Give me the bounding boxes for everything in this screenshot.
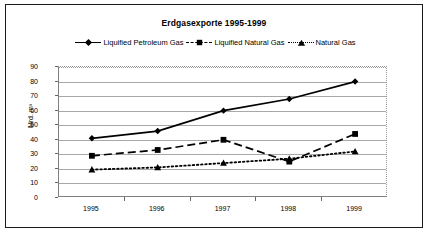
legend-label-natural-gas: Natural Gas [316,38,356,47]
y-axis-tick-label: 30 [8,150,38,157]
y-axis-tick-label: 0 [8,194,38,201]
data-point-marker [155,147,161,153]
data-point-marker [221,137,227,143]
x-axis-tick-label: 1997 [203,205,243,212]
y-axis-tick-label: 50 [8,121,38,128]
legend-marker-square-icon [186,38,212,47]
chart-legend: Liquified Petroleum Gas Liquified Natura… [6,38,422,47]
y-axis-tick-label: 80 [8,77,38,84]
y-axis-tick-label: 70 [8,92,38,99]
legend-label-liquified-natural-gas: Liquified Natural Gas [214,38,284,47]
legend-marker-diamond-icon [75,38,101,47]
x-axis-tick-mark [124,197,125,201]
data-point-marker [89,135,95,141]
y-axis-tick-label: 40 [8,135,38,142]
y-axis-tick-label: 90 [8,63,38,70]
series-layer [59,67,388,198]
data-point-marker [352,78,358,84]
y-axis-tick-label: 20 [8,164,38,171]
x-axis-tick-label: 1995 [71,205,111,212]
legend-item-liquified-petroleum-gas: Liquified Petroleum Gas [72,38,183,47]
x-axis-tick-label: 1998 [268,205,308,212]
x-axis-tick-label: 1999 [334,205,374,212]
x-axis-tick-mark [255,197,256,201]
legend-item-natural-gas: Natural Gas [285,38,356,47]
legend-marker-triangle-icon [288,38,314,47]
x-axis-tick-mark [321,197,322,201]
x-axis-tick-label: 1996 [137,205,177,212]
y-axis-tick-mark [55,197,58,198]
data-point-marker [89,153,95,159]
data-point-marker [352,131,358,137]
chart-frame: Erdgasexporte 1995-1999 Liquified Petrol… [5,4,423,228]
plot-area [58,66,387,197]
data-point-marker [155,128,161,134]
legend-item-liquified-natural-gas: Liquified Natural Gas [183,38,284,47]
legend-label-liquified-petroleum-gas: Liquified Petroleum Gas [103,38,183,47]
data-point-marker [220,107,226,113]
y-axis-tick-label: 10 [8,179,38,186]
x-axis-tick-mark [190,197,191,201]
data-point-marker [286,96,292,102]
chart-title: Erdgasexporte 1995-1999 [6,18,422,28]
y-axis-tick-label: 60 [8,106,38,113]
